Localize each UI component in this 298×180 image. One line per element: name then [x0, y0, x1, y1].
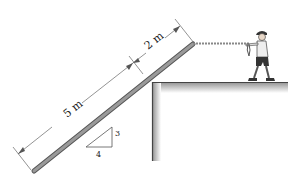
- slope-run-label: 4: [96, 150, 101, 159]
- extension-line-top: [175, 19, 194, 43]
- cliff: [152, 82, 288, 161]
- wall-shading: [153, 83, 161, 161]
- person-icon: [246, 31, 275, 81]
- label-5m: 5 m: [61, 97, 86, 121]
- slope-rise-label: 3: [115, 129, 120, 138]
- slope-triangle: [86, 127, 112, 147]
- plank: [34, 44, 193, 171]
- diagram-canvas: 5 m 2 m 3 4: [0, 0, 298, 180]
- ground-shading: [153, 83, 288, 93]
- label-2m: 2 m: [142, 29, 167, 53]
